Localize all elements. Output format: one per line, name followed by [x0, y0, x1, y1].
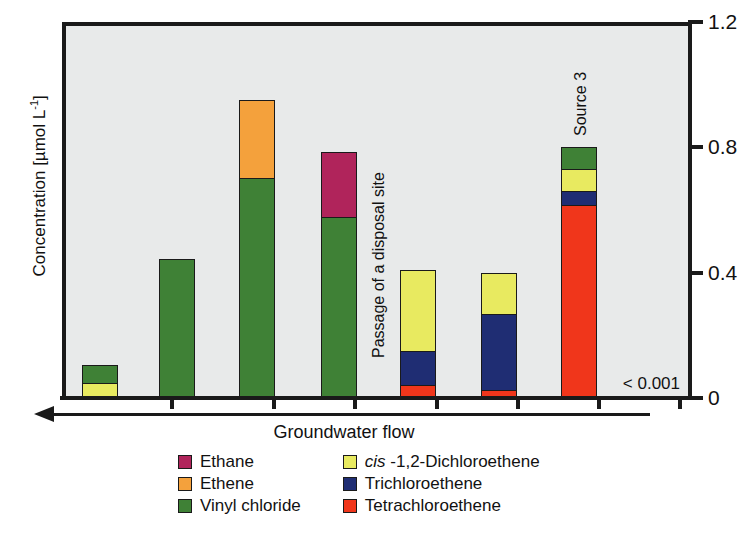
annotation-detection-limit: < 0.001 — [623, 374, 680, 394]
bar-segment-ethane — [322, 153, 356, 218]
y-tick-label: 0.8 — [708, 136, 737, 157]
legend-swatch-icon — [178, 455, 192, 469]
legend-label: Ethane — [200, 452, 254, 472]
y-tick-label: 0.4 — [708, 262, 737, 283]
x-tick — [678, 400, 682, 409]
legend: Ethanecis -1,2-DichloroetheneEtheneTrich… — [178, 452, 540, 516]
groundwater-flow-arrow: Groundwater flow — [34, 404, 654, 438]
x-axis-label: Groundwater flow — [34, 422, 654, 443]
chart-page: Concentration [µmol L-1] Passage of a di… — [0, 0, 756, 547]
bar-segment-cis-1-2-dichloroethene — [482, 274, 516, 316]
legend-swatch-icon — [178, 499, 192, 513]
bar-7 — [561, 147, 597, 398]
bar-2 — [159, 259, 195, 398]
legend-item-ethene: Ethene — [178, 474, 301, 494]
legend-item-ethane: Ethane — [178, 452, 301, 472]
bar-3 — [239, 100, 275, 398]
arrow-line — [50, 413, 650, 416]
bar-segment-cis-1-2-dichloroethene — [401, 271, 435, 353]
legend-item-tetrachloroethene: Tetrachloroethene — [343, 496, 540, 516]
y-tick — [692, 20, 703, 24]
legend-label: Tetrachloroethene — [365, 496, 501, 516]
bar-segment-vinyl-chloride — [322, 218, 356, 397]
bar-6 — [481, 273, 517, 398]
legend-label: Trichloroethene — [365, 474, 483, 494]
bar-segment-trichloroethene — [562, 192, 596, 206]
bar-segment-vinyl-chloride — [562, 148, 596, 170]
legend-swatch-icon — [178, 477, 192, 491]
legend-item-vinyl-chloride: Vinyl chloride — [178, 496, 301, 516]
plot-area: Passage of a disposal site Source 3 < 0.… — [62, 22, 690, 398]
legend-swatch-icon — [343, 477, 357, 491]
legend-item--1-2-dichloroethene: cis -1,2-Dichloroethene — [343, 452, 540, 472]
annotation-disposal-site: Passage of a disposal site — [370, 172, 388, 358]
y-axis-title-exponent: -1 — [28, 100, 40, 110]
bar-segment-cis-1-2-dichloroethene — [562, 170, 596, 192]
bar-1 — [82, 365, 118, 398]
bar-segment-trichloroethene — [401, 352, 435, 386]
y-axis-line — [688, 20, 692, 400]
legend-label: Ethene — [200, 474, 254, 494]
bar-segment-vinyl-chloride — [160, 260, 194, 397]
bar-segment-trichloroethene — [482, 315, 516, 391]
legend-label: Vinyl chloride — [200, 496, 301, 516]
legend-label: cis -1,2-Dichloroethene — [365, 452, 540, 472]
y-tick — [692, 145, 703, 149]
legend-swatch-icon — [343, 455, 357, 469]
bar-segment-vinyl-chloride — [240, 179, 274, 397]
y-tick — [692, 396, 703, 400]
bar-4 — [321, 152, 357, 398]
y-tick-label: 1.2 — [708, 11, 737, 32]
legend-label-italic: cis — [365, 452, 391, 471]
bar-segment-tetrachloroethene — [562, 206, 596, 397]
annotation-source-3: Source 3 — [572, 72, 590, 136]
bar-5 — [400, 270, 436, 398]
y-tick-label: 0 — [708, 387, 720, 408]
bar-segment-ethene — [240, 101, 274, 179]
y-tick — [692, 271, 703, 275]
bar-segment-vinyl-chloride — [83, 366, 117, 384]
legend-swatch-icon — [343, 499, 357, 513]
y-axis-title-text: Concentration [µmol L — [30, 110, 49, 277]
y-axis-title-bracket: ] — [30, 95, 49, 100]
legend-item-trichloroethene: Trichloroethene — [343, 474, 540, 494]
y-axis-title: Concentration [µmol L-1] — [28, 21, 50, 351]
